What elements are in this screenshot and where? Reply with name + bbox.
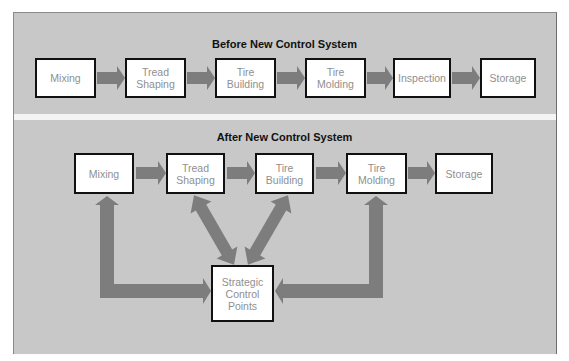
before-step-tire-building: TireBuilding	[215, 58, 276, 98]
step-label: Mixing	[50, 72, 80, 84]
step-label: Tread	[176, 162, 215, 174]
arrow-right-icon	[367, 66, 393, 90]
step-label: Molding	[317, 78, 354, 90]
step-label: Mixing	[89, 168, 119, 180]
arrow-right-icon	[227, 161, 255, 185]
after-step-mixing: Mixing	[74, 153, 134, 194]
arrow-right-icon	[277, 66, 305, 90]
step-label: Building	[266, 174, 303, 186]
step-label: Storage	[490, 72, 527, 84]
after-step-storage: Storage	[435, 153, 493, 194]
step-label: Shaping	[136, 78, 175, 90]
arrow-right-icon	[187, 66, 215, 90]
step-label: Building	[227, 78, 264, 90]
step-label: Tire	[266, 162, 303, 174]
double-arrow-building-icon	[238, 189, 299, 270]
control-label: Strategic	[222, 276, 263, 288]
after-step-tire-molding: TireMolding	[346, 153, 407, 194]
step-label: Tread	[136, 66, 175, 78]
step-label: Tire	[227, 66, 264, 78]
step-label: Storage	[446, 168, 483, 180]
step-label: Shaping	[176, 174, 215, 186]
arrow-right-icon	[452, 66, 480, 90]
control-label: Points	[222, 300, 263, 312]
feedback-arrow-mixing-icon	[95, 196, 211, 304]
step-label: Molding	[358, 174, 395, 186]
arrow-right-icon	[408, 161, 435, 185]
before-title: Before New Control System	[0, 38, 569, 50]
arrow-right-icon	[97, 66, 125, 90]
step-label: Tire	[358, 162, 395, 174]
after-title: After New Control System	[0, 131, 569, 143]
after-step-tread-shaping: TreadShaping	[166, 153, 225, 194]
after-step-tire-building: TireBuilding	[255, 153, 314, 194]
before-step-tread-shaping: TreadShaping	[125, 58, 186, 98]
before-step-tire-molding: TireMolding	[305, 58, 366, 98]
step-label: Inspection	[398, 72, 446, 84]
feedback-arrow-molding-icon	[275, 196, 388, 304]
before-step-storage: Storage	[480, 58, 536, 98]
control-label: Control	[222, 288, 263, 300]
before-step-mixing: Mixing	[35, 58, 96, 98]
double-arrow-tread-icon	[184, 189, 245, 270]
before-step-inspection: Inspection	[393, 58, 451, 98]
arrow-right-icon	[316, 161, 346, 185]
step-label: Tire	[317, 66, 354, 78]
strategic-control-points: Strategic Control Points	[211, 265, 274, 322]
arrow-right-icon	[136, 161, 166, 185]
